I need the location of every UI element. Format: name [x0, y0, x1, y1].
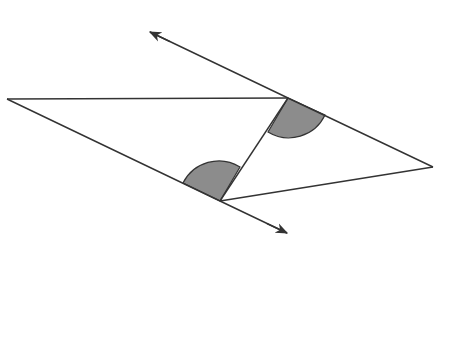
shaded-angle-top: [268, 98, 325, 138]
lower-arrowed-line: [7, 99, 287, 233]
segment-left-top: [7, 98, 288, 99]
arrowed-transversal-line: [150, 32, 433, 167]
segment-bottom-right: [220, 167, 433, 201]
arrow-head-bottom: [267, 224, 287, 233]
arrowed-line: [150, 32, 287, 234]
shaded-angle-bottom: [183, 161, 240, 201]
geometry-diagram: [0, 0, 461, 350]
